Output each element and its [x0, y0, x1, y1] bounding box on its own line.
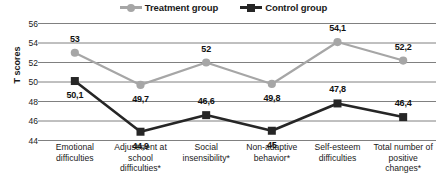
- x-axis-category-labels: EmotionaldifficultiesAdjustment atschool…: [42, 142, 436, 186]
- x-axis-category-label: Non-adaptivebehavior*: [234, 142, 310, 163]
- data-point-marker-circle: [268, 80, 276, 88]
- data-point-marker-circle: [399, 56, 407, 64]
- x-axis-category-label: Socialinsensibility*: [168, 142, 244, 163]
- data-label-control: 46,4: [395, 98, 412, 108]
- x-axis-category-label: Adjustment atschooldifficulties*: [103, 142, 179, 174]
- y-axis-tick: 46: [20, 116, 38, 126]
- data-label-treatment: 53: [70, 34, 80, 44]
- data-point-marker-circle: [333, 38, 341, 46]
- data-point-marker-circle: [71, 49, 79, 57]
- data-label-control: 46,6: [198, 96, 215, 106]
- line-control: [75, 81, 403, 132]
- series-treatment-group: [71, 38, 408, 89]
- data-point-marker-square: [202, 111, 210, 119]
- data-label-control: 47,8: [329, 84, 346, 94]
- data-point-marker-square: [137, 128, 145, 136]
- y-axis-tick: 56: [20, 19, 38, 29]
- x-axis-category-label: Self-esteemdifficulties: [300, 142, 376, 163]
- x-axis-category-label: Total number ofpositivechanges*: [365, 142, 441, 174]
- y-axis-tick: 48: [20, 97, 38, 107]
- data-label-treatment: 54,1: [329, 23, 346, 33]
- data-label-treatment: 49,8: [263, 93, 280, 103]
- x-axis-category-label: Emotionaldifficulties: [37, 142, 113, 163]
- data-label-treatment: 52,2: [395, 42, 412, 52]
- data-point-marker-circle: [202, 58, 210, 66]
- line-treatment: [75, 42, 403, 85]
- y-axis-tick: 50: [20, 77, 38, 87]
- data-label-treatment: 49,7: [132, 94, 149, 104]
- data-point-marker-square: [334, 99, 342, 107]
- line-chart: Treatment group Control group T scores 5…: [0, 0, 447, 186]
- series-control-group: [71, 77, 407, 136]
- data-label-treatment: 52: [201, 44, 211, 54]
- y-axis-tick-labels: 56545250484644: [18, 0, 38, 186]
- y-axis-tick: 44: [20, 136, 38, 146]
- y-axis-tick: 54: [20, 38, 38, 48]
- data-point-marker-square: [268, 127, 276, 135]
- y-axis-tick: 52: [20, 58, 38, 68]
- data-point-marker-square: [399, 113, 407, 121]
- data-label-control: 50,1: [66, 90, 83, 100]
- data-point-marker-square: [71, 77, 79, 85]
- data-point-marker-circle: [136, 81, 144, 89]
